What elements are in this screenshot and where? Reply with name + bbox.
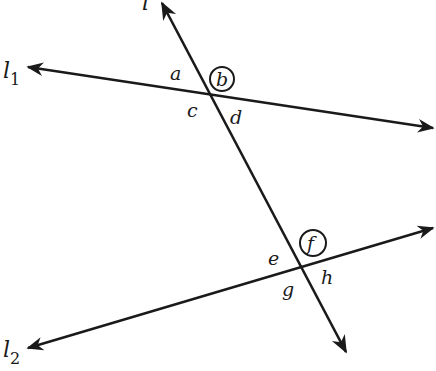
angle-label-h: h bbox=[321, 266, 333, 288]
angle-label-b: b bbox=[216, 68, 228, 90]
angle-label-g: g bbox=[282, 278, 294, 300]
transversal-label: l bbox=[142, 0, 149, 15]
angle-label-c: c bbox=[187, 99, 198, 121]
line1-label: l1 bbox=[3, 58, 20, 89]
angle-label-d: d bbox=[230, 106, 242, 128]
angle-label-f: f bbox=[305, 232, 317, 254]
parallel-lines-transversal-diagram: l l1 l2 a b c d e f g h bbox=[0, 0, 436, 371]
line2-label: l2 bbox=[3, 337, 20, 368]
line-l2 bbox=[28, 228, 433, 348]
diagram-canvas: l l1 l2 a b c d e f g h bbox=[0, 0, 436, 371]
angle-label-a: a bbox=[170, 62, 181, 84]
angle-label-e: e bbox=[268, 247, 279, 269]
